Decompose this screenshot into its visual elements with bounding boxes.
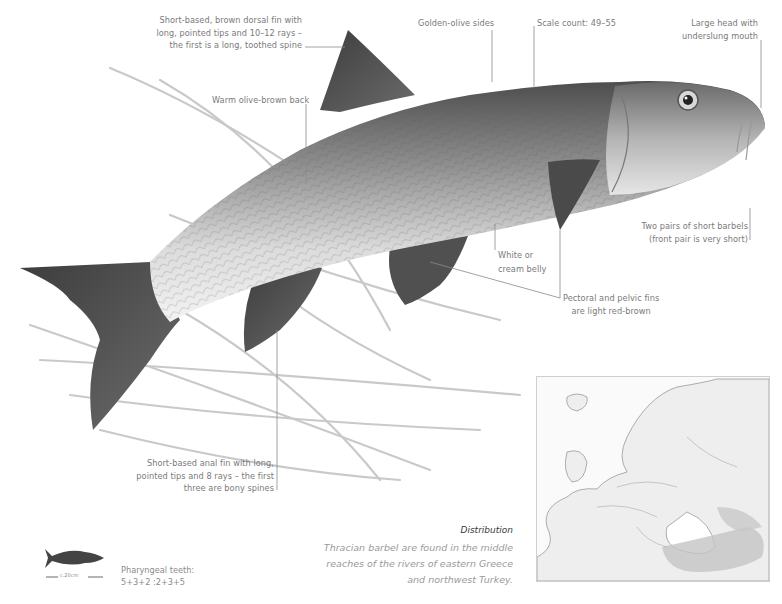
head-label: Large head with underslung mouth	[682, 17, 758, 42]
size-scale-label: c.20cm	[60, 572, 78, 578]
scale-count-label: Scale count: 49–55	[537, 17, 616, 30]
distribution-title: Distribution	[460, 525, 513, 535]
dorsal-fin-line-2: long, pointed tips and 10–12 rays –	[156, 27, 302, 40]
distribution-line-3: and northwest Turkey.	[324, 572, 513, 588]
europe-map	[537, 377, 769, 581]
pharyngeal-teeth-label: Pharyngeal teeth:	[121, 564, 194, 576]
head-line-1: Large head with	[682, 17, 758, 30]
fins-label: Pectoral and pelvic fins are light red-b…	[563, 292, 659, 318]
distribution-line-1: Thracian barbel are found in the middle	[324, 540, 513, 556]
dorsal-fin-label: Short-based, brown dorsal fin with long,…	[156, 14, 302, 52]
belly-label: White or cream belly	[498, 248, 547, 276]
barbels-line-1: Two pairs of short barbels	[642, 220, 748, 233]
anal-fin-line-2: pointed tips and 8 rays – the first	[136, 470, 274, 483]
dorsal-fin-line-1: Short-based, brown dorsal fin with	[156, 14, 302, 27]
distribution-text: Thracian barbel are found in the middle …	[324, 540, 513, 588]
pharyngeal-teeth-formula: 5+3+2 :2+3+5	[121, 576, 194, 588]
belly-line-1: White or	[498, 248, 547, 262]
anal-fin-line-3: three are bony spines	[136, 482, 274, 495]
dorsal-fin	[320, 30, 415, 112]
distribution-line-2: reaches of the rivers of eastern Greece	[324, 556, 513, 572]
distribution-map	[536, 376, 770, 582]
barbels-label: Two pairs of short barbels (front pair i…	[642, 220, 748, 245]
anal-fin-label: Short-based anal fin with long, pointed …	[136, 457, 274, 495]
dorsal-fin-line-3: the first is a long, toothed spine	[156, 39, 302, 52]
head-line-2: underslung mouth	[682, 30, 758, 43]
anal-fin-line-1: Short-based anal fin with long,	[136, 457, 274, 470]
belly-line-2: cream belly	[498, 262, 547, 276]
sides-label: Golden-olive sides	[418, 17, 494, 30]
barbels-line-2: (front pair is very short)	[642, 233, 748, 246]
fins-line-2: are light red-brown	[563, 305, 659, 318]
fins-line-1: Pectoral and pelvic fins	[563, 292, 659, 305]
back-label: Warm olive-brown back	[212, 94, 309, 107]
pharyngeal-teeth: Pharyngeal teeth: 5+3+2 :2+3+5	[121, 564, 194, 588]
